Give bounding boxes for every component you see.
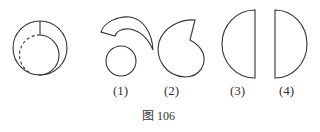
crescent-piece <box>101 17 153 50</box>
half-disc-right <box>275 10 307 78</box>
figure-caption: 图 106 <box>142 106 175 124</box>
option-4-figure <box>275 10 307 78</box>
small-circle <box>106 46 136 76</box>
original-figure <box>13 21 67 75</box>
option-2-label: (2) <box>164 83 179 99</box>
curled-shape <box>158 20 204 77</box>
inner-circle-solid-arc <box>38 35 59 75</box>
half-disc-left <box>222 10 255 78</box>
option-2-figure <box>158 20 204 77</box>
option-4-label: (4) <box>279 83 294 99</box>
option-1-label: (1) <box>113 83 128 99</box>
option-3-figure <box>222 10 255 78</box>
option-1-figure <box>101 17 153 76</box>
inner-circle-dashed-arc <box>20 35 40 72</box>
option-3-label: (3) <box>230 83 245 99</box>
